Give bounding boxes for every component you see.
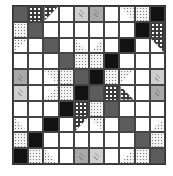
fabric-patch xyxy=(120,133,133,147)
quilt-cell xyxy=(119,6,134,22)
fabric-patch xyxy=(90,39,103,53)
fabric-patch xyxy=(105,70,118,84)
quilt-cell xyxy=(89,6,104,22)
quilt-cell xyxy=(104,85,119,101)
quilt-cell xyxy=(13,6,28,22)
quilt-cell xyxy=(43,101,58,117)
fabric-patch xyxy=(44,118,57,132)
quilt-cell xyxy=(89,148,104,164)
quilt-cell xyxy=(150,69,165,85)
quilt-cell xyxy=(135,117,150,133)
fabric-patch xyxy=(90,7,103,21)
quilt-cell xyxy=(104,148,119,164)
fabric-patch xyxy=(44,133,57,147)
quilt-cell xyxy=(89,85,104,101)
quilt-cell xyxy=(59,117,74,133)
quilt-cell xyxy=(59,69,74,85)
fabric-patch xyxy=(105,54,118,68)
fabric-patch xyxy=(151,102,164,116)
fabric-patch xyxy=(29,86,42,100)
fabric-patch xyxy=(14,133,27,147)
fabric-patch xyxy=(60,149,73,163)
quilt-cell xyxy=(119,117,134,133)
quilt-cell xyxy=(74,85,89,101)
fabric-patch xyxy=(105,102,118,116)
fabric-patch xyxy=(90,149,103,163)
quilt-cell xyxy=(13,22,28,38)
fabric-patch xyxy=(29,23,42,37)
quilt-cell xyxy=(28,53,43,69)
fabric-patch xyxy=(75,149,88,163)
quilt-cell xyxy=(13,101,28,117)
quilt-cell xyxy=(119,69,134,85)
quilt-cell xyxy=(119,22,134,38)
quilt-cell xyxy=(135,148,150,164)
quilt-cell xyxy=(119,132,134,148)
quilt-cell xyxy=(28,132,43,148)
quilt-cell xyxy=(74,148,89,164)
fabric-patch xyxy=(136,133,149,147)
quilt-cell xyxy=(43,132,58,148)
fabric-patch xyxy=(29,102,42,116)
quilt-cell xyxy=(74,69,89,85)
fabric-patch xyxy=(29,133,42,147)
quilt-cell xyxy=(28,101,43,117)
quilt-cell xyxy=(104,132,119,148)
fabric-patch xyxy=(151,118,164,132)
fabric-patch xyxy=(14,39,27,53)
fabric-patch xyxy=(75,54,88,68)
fabric-patch xyxy=(90,70,103,84)
quilt-cell xyxy=(150,132,165,148)
quilt-cell xyxy=(43,6,58,22)
fabric-patch xyxy=(136,86,149,100)
quilt-cell xyxy=(59,38,74,54)
fabric-patch xyxy=(29,70,42,84)
fabric-patch xyxy=(90,86,103,100)
fabric-patch xyxy=(120,86,133,100)
fabric-patch xyxy=(75,39,88,53)
fabric-patch xyxy=(105,133,118,147)
quilt-cell xyxy=(135,38,150,54)
fabric-patch xyxy=(44,102,57,116)
quilt-cell xyxy=(89,101,104,117)
fabric-patch xyxy=(151,149,164,163)
fabric-patch xyxy=(75,118,88,132)
quilt-cell xyxy=(119,85,134,101)
fabric-patch xyxy=(44,70,57,84)
fabric-patch xyxy=(105,118,118,132)
quilt-cell xyxy=(74,6,89,22)
fabric-patch xyxy=(136,118,149,132)
fabric-patch xyxy=(29,54,42,68)
quilt-cell xyxy=(28,69,43,85)
quilt-cell xyxy=(43,69,58,85)
quilt-cell xyxy=(13,148,28,164)
fabric-patch xyxy=(90,54,103,68)
fabric-patch xyxy=(105,86,118,100)
quilt-cell xyxy=(135,85,150,101)
fabric-patch xyxy=(44,54,57,68)
quilt-cell xyxy=(89,132,104,148)
quilt-cell xyxy=(89,38,104,54)
quilt-cell xyxy=(43,85,58,101)
fabric-patch xyxy=(14,118,27,132)
fabric-patch xyxy=(14,23,27,37)
fabric-patch xyxy=(136,39,149,53)
fabric-patch xyxy=(120,39,133,53)
quilt-cell xyxy=(28,85,43,101)
fabric-patch xyxy=(14,102,27,116)
quilt-cell xyxy=(13,69,28,85)
fabric-patch xyxy=(151,23,164,37)
fabric-patch xyxy=(60,39,73,53)
quilt-cell xyxy=(119,53,134,69)
fabric-patch xyxy=(14,70,27,84)
fabric-patch xyxy=(136,54,149,68)
fabric-patch xyxy=(29,149,42,163)
quilt-cell xyxy=(135,101,150,117)
quilt-cell xyxy=(74,132,89,148)
fabric-patch xyxy=(151,39,164,53)
quilt-cell xyxy=(104,22,119,38)
fabric-patch xyxy=(44,86,57,100)
quilt-cell xyxy=(150,22,165,38)
quilt-cell xyxy=(135,132,150,148)
fabric-patch xyxy=(60,70,73,84)
